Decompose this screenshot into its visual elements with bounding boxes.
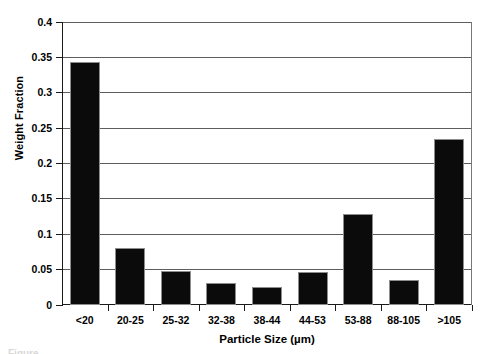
x-axis-title: Particle Size (µm) [62,333,472,345]
caption-sliver: Figure [8,348,39,354]
y-axis-tick-label: 0.4 [0,17,52,28]
x-axis-tick [381,305,382,311]
x-axis-category-label: 53-88 [335,314,381,326]
bar [206,283,236,305]
y-axis-tick-label: 0 [0,300,52,311]
bar-slot [290,22,336,305]
bar [70,62,100,305]
x-axis-category-label: 88-105 [381,314,427,326]
bar [434,139,464,305]
x-axis-tick [199,305,200,311]
bar [343,214,373,305]
x-axis-tick [244,305,245,311]
x-axis-category-label: 32-38 [199,314,245,326]
y-axis-tick-label: 0.3 [0,87,52,98]
bar [389,280,419,305]
bar-slot [426,22,472,305]
x-axis-tick [472,305,473,311]
bar-slot [244,22,290,305]
x-axis-tick [108,305,109,311]
bar-chart-figure: Weight Fraction 00.050.10.150.20.250.30.… [0,0,493,354]
bar-slot [153,22,199,305]
bar-slot [108,22,154,305]
bar-slot [199,22,245,305]
x-axis-category-label: 25-32 [153,314,199,326]
bar [115,248,145,305]
x-axis-category-label: <20 [62,314,108,326]
x-axis-tick [153,305,154,311]
bar [252,287,282,305]
y-axis-tick-label: 0.15 [0,193,52,204]
bar-slot [62,22,108,305]
bars-container [62,22,472,305]
bar [161,271,191,305]
y-axis-tick-label: 0.35 [0,52,52,63]
x-axis-tick [335,305,336,311]
y-axis-tick-label: 0.1 [0,229,52,240]
x-axis-category-label: 38-44 [244,314,290,326]
y-axis-tick-label: 0.25 [0,123,52,134]
x-axis-tick [426,305,427,311]
x-axis-category-label: 20-25 [108,314,154,326]
y-axis-tick-label: 0.05 [0,264,52,275]
x-axis-category-label: >105 [426,314,472,326]
bar [298,272,328,305]
bar-slot [381,22,427,305]
bar-slot [335,22,381,305]
x-axis-tick [290,305,291,311]
x-axis-category-label: 44-53 [290,314,336,326]
y-axis-tick-label: 0.2 [0,158,52,169]
